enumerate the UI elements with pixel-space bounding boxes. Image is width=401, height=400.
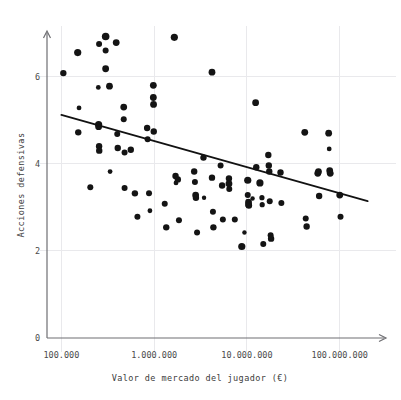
data-points: [60, 33, 343, 250]
x-tick-label: 1.000.000: [131, 350, 177, 360]
data-point: [256, 179, 263, 186]
data-point: [121, 116, 127, 122]
data-point: [74, 49, 81, 56]
data-point: [194, 230, 200, 236]
data-point: [316, 193, 322, 199]
data-point: [163, 224, 169, 230]
data-point: [218, 162, 224, 168]
data-point: [242, 230, 246, 234]
x-tick-labels: 100.0001.000.00010.000.000100.000.000: [43, 350, 367, 360]
y-tick-label: 2: [35, 246, 40, 256]
data-point: [250, 196, 254, 200]
data-point: [108, 169, 113, 174]
y-tick-labels: 0246: [35, 72, 40, 343]
data-point: [268, 235, 274, 241]
data-point: [132, 190, 138, 196]
data-point: [115, 145, 121, 151]
data-point: [303, 223, 309, 229]
data-point: [103, 47, 109, 53]
data-point: [260, 241, 266, 247]
y-axis-title: Acciones defensivas: [16, 133, 26, 238]
data-point: [259, 195, 264, 200]
data-point: [232, 216, 238, 222]
data-point: [150, 82, 157, 89]
axes: [44, 31, 387, 342]
data-point: [327, 147, 332, 152]
data-point: [122, 149, 128, 155]
data-point: [171, 34, 178, 41]
data-point: [122, 185, 128, 191]
data-point: [176, 217, 182, 223]
data-point: [120, 104, 127, 111]
data-point: [102, 65, 109, 72]
data-point: [267, 198, 273, 204]
data-point: [102, 33, 110, 41]
data-point: [144, 125, 150, 131]
data-point: [325, 130, 332, 137]
data-point: [202, 196, 206, 200]
y-tick-label: 0: [35, 333, 40, 343]
data-point: [209, 174, 215, 180]
scatter-chart: 0246 100.0001.000.00010.000.000100.000.0…: [0, 0, 401, 400]
data-point: [277, 169, 283, 175]
data-point: [209, 69, 216, 76]
data-point: [245, 192, 251, 198]
trendline: [61, 115, 367, 201]
data-point: [315, 168, 322, 175]
data-point: [303, 216, 309, 222]
data-point: [150, 101, 157, 108]
data-point: [96, 147, 102, 153]
data-point: [106, 83, 113, 90]
gridlines: [40, 26, 396, 352]
data-point: [87, 184, 93, 190]
x-tick-label: 100.000: [43, 350, 79, 360]
chart-canvas: 0246 100.0001.000.00010.000.000100.000.0…: [0, 0, 401, 400]
data-point: [252, 99, 259, 106]
data-point: [192, 179, 198, 185]
y-tick-label: 4: [35, 159, 40, 169]
data-point: [246, 202, 252, 208]
data-point: [260, 202, 265, 207]
data-point: [226, 186, 232, 192]
x-tick-label: 100.000.000: [312, 350, 368, 360]
data-point: [134, 214, 140, 220]
data-point: [146, 190, 152, 196]
data-point: [265, 152, 271, 158]
x-axis-title: Valor de mercado del jugador (€): [112, 373, 289, 383]
data-point: [151, 128, 157, 134]
data-point: [219, 182, 225, 188]
data-point: [210, 224, 216, 230]
y-tick-label: 6: [35, 72, 40, 82]
data-point: [175, 176, 181, 182]
data-point: [278, 200, 284, 206]
data-point: [60, 70, 66, 76]
data-point: [148, 208, 153, 213]
data-point: [75, 129, 81, 135]
data-point: [96, 85, 101, 90]
data-point: [113, 39, 120, 46]
data-point: [301, 129, 308, 136]
data-point: [150, 94, 157, 101]
data-point: [96, 41, 102, 47]
data-point: [193, 195, 199, 201]
data-point: [77, 106, 82, 111]
data-point: [210, 209, 216, 215]
x-tick-label: 10.000.000: [221, 350, 272, 360]
data-point: [162, 201, 168, 207]
data-point: [327, 170, 334, 177]
data-point: [191, 168, 197, 174]
data-point: [238, 243, 245, 250]
data-point: [220, 216, 226, 222]
data-point: [128, 147, 134, 153]
data-point: [338, 214, 344, 220]
data-point: [266, 162, 272, 168]
data-point: [244, 177, 251, 184]
